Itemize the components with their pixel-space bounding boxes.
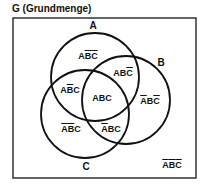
set-label-a: A (89, 20, 96, 31)
set-label-b: B (157, 57, 164, 68)
region-label-a-notb-c: ABC (60, 85, 80, 95)
region-label-a-b-notc: ABC (113, 68, 133, 78)
region-label-nota-b-notc: ABC (140, 96, 160, 106)
region-label-a-b-c: ABC (92, 93, 112, 103)
region-label-nota-notb-c: ABC (61, 124, 81, 134)
set-label-c: C (82, 161, 89, 172)
region-label-nota-notb-notc: ABC (162, 160, 182, 170)
region-label-nota-b-c: ABC (101, 124, 121, 134)
region-label-a-notb-notc: ABC (78, 51, 98, 61)
